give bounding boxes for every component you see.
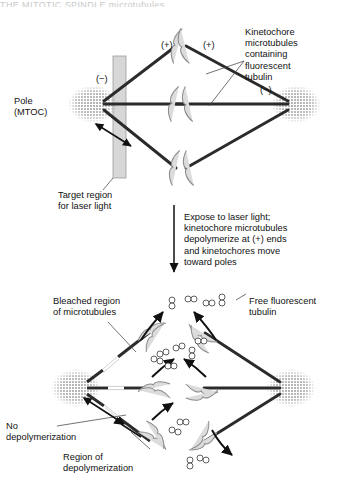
target-leader-line — [103, 178, 113, 190]
chromosome-bl-top — [135, 319, 166, 352]
microtubules-bottom-right — [204, 333, 280, 441]
minus-end-right-label: (−) — [260, 85, 272, 96]
chromosome-bl-bot — [138, 418, 169, 449]
laser-step-text: Expose to laser light; kinetochore micro… — [184, 212, 287, 268]
chromosome-br-bot — [189, 421, 220, 454]
bottom-spindle-panel — [51, 294, 316, 469]
figure-canvas: THE MITOTIC SPINDLE microtubules — [0, 0, 357, 492]
free-tubulin-label: Free fluorescent tubulin — [249, 296, 316, 318]
kinetochore-leader-lines — [206, 61, 244, 106]
chromosome-bl-mid — [137, 379, 172, 398]
plus-end-left-label: (+) — [161, 40, 173, 51]
no-depolymerization-label: No depolymerization — [6, 421, 76, 443]
bleached-region-label: Bleached region of microtubules — [53, 296, 120, 318]
target-region-label: Target region for laser light — [58, 190, 112, 212]
pole-mtoc-label: Pole (MTOC) — [14, 96, 47, 118]
chromosome-bottom — [167, 149, 194, 186]
minus-end-left-label: (−) — [96, 74, 108, 85]
region-depolymerization-label: Region of depolymerization — [63, 452, 133, 474]
no-depolymerization-arrow — [84, 398, 124, 424]
plus-end-right-label: (+) — [203, 40, 215, 51]
diagram-svg — [0, 0, 357, 492]
kinetochore-microtubules-label: Kinetochore microtubules containing fluo… — [245, 27, 298, 83]
